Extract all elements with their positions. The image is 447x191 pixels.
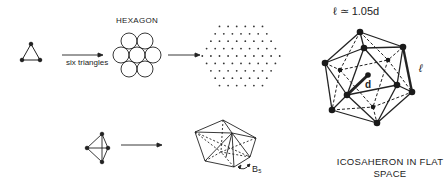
b5-label: B₅	[252, 164, 262, 174]
arrow-six-triangles	[62, 53, 103, 57]
triangle-shape	[20, 42, 42, 62]
edge-length-equation: ℓ ≃ 1.05d	[333, 5, 379, 18]
radius-label: d	[365, 79, 371, 90]
edge-label: ℓ	[419, 62, 423, 74]
pentagonal-bipyramid	[195, 120, 256, 169]
six-triangles-label: six triangles	[66, 58, 108, 67]
caption-line-1: ICOSAHERON IN FLAT	[330, 156, 447, 168]
hexagon-circle-packing	[113, 33, 161, 77]
triangular-lattice	[201, 26, 280, 87]
arrow-to-lattice	[168, 53, 200, 57]
icosahedron	[322, 29, 416, 127]
arrow-to-bipyramid	[121, 143, 162, 147]
tetrahedron-shape	[85, 132, 110, 164]
caption-line-2: SPACE	[330, 168, 447, 180]
icosahedron-caption: ICOSAHERON IN FLAT SPACE	[330, 156, 447, 180]
hexagon-label: HEXAGON	[116, 16, 158, 25]
